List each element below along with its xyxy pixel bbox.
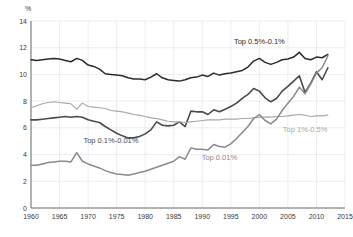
y-tick-label: 10 xyxy=(19,71,27,78)
series-line-top-0-01 xyxy=(31,56,328,176)
x-tick-label: 1970 xyxy=(80,213,96,220)
x-tick-label: 1980 xyxy=(137,213,153,220)
y-axis: 02468101214 xyxy=(19,18,31,212)
y-tick-label: 0 xyxy=(23,205,27,212)
x-tick-label: 1975 xyxy=(109,213,125,220)
annotation-top-0-1-0-01: Top 0.1%-0.01% xyxy=(83,136,138,145)
x-tick-label: 1995 xyxy=(223,213,239,220)
x-tick-label: 1965 xyxy=(52,213,68,220)
x-tick-label: 1960 xyxy=(23,213,39,220)
y-axis-unit-label: % xyxy=(25,5,31,12)
line-chart: 02468101214 1960196519701975198019851990… xyxy=(0,0,353,237)
series-line-top-0-5-0-1 xyxy=(31,52,328,81)
chart-container: 02468101214 1960196519701975198019851990… xyxy=(0,0,353,237)
series-group xyxy=(31,52,328,175)
y-tick-label: 2 xyxy=(23,178,27,185)
x-tick-label: 2010 xyxy=(309,213,325,220)
y-tick-label: 8 xyxy=(23,98,27,105)
y-tick-label: 4 xyxy=(23,151,27,158)
annotation-top-1-0-5: Top 1%-0.5% xyxy=(283,125,328,134)
annotation-top-0-5-0-1: Top 0.5%-0.1% xyxy=(234,37,285,46)
y-tick-label: 14 xyxy=(19,18,27,25)
x-tick-label: 2015 xyxy=(337,213,353,220)
y-tick-label: 6 xyxy=(23,124,27,131)
series-line-top-1-0-5 xyxy=(31,102,328,123)
x-tick-label: 1990 xyxy=(194,213,210,220)
x-axis: 1960196519701975198019851990199520002005… xyxy=(23,208,353,220)
y-tick-label: 12 xyxy=(19,44,27,51)
x-tick-label: 2000 xyxy=(252,213,268,220)
x-tick-label: 1985 xyxy=(166,213,182,220)
annotation-top-0-01: Top 0.01% xyxy=(202,153,238,162)
x-tick-label: 2005 xyxy=(280,213,296,220)
